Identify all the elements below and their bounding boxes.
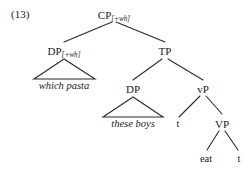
node-tp: TP (159, 45, 172, 57)
terminal-trace-object: t (238, 153, 241, 164)
example-number: (13) (11, 8, 30, 21)
tree-svg: (13) CP[+wh] DP[+wh] TP DP vP VP which p… (0, 0, 252, 175)
branch-cp-to-dp-wh (64, 22, 112, 42)
syntax-tree-figure: (13) CP[+wh] DP[+wh] TP DP vP VP which p… (0, 0, 252, 175)
node-dp-subject: DP (126, 83, 140, 95)
terminal-trace-subject: t (177, 118, 180, 129)
node-cp-subscript: [+wh] (111, 15, 130, 23)
triangle-which-pasta (34, 59, 95, 79)
branch-vp-to-trace-object (225, 131, 238, 150)
node-vp-big: VP (215, 118, 229, 130)
terminal-verb: eat (200, 153, 212, 164)
triangle-these-boys (103, 97, 163, 117)
terminal-these-boys: these boys (111, 118, 154, 129)
node-dp-wh-subscript: [+wh] (62, 51, 81, 59)
branch-cp-to-tp (116, 22, 165, 42)
terminal-which-pasta: which pasta (39, 80, 89, 91)
branch-vp-to-trace-subject (179, 96, 200, 117)
node-cp: CP[+wh] (98, 9, 131, 23)
node-dp-wh: DP[+wh] (48, 45, 81, 59)
branch-vp-to-vp-big (206, 96, 222, 114)
branch-tp-to-vp (168, 59, 203, 80)
branch-vp-to-verb (207, 131, 219, 150)
branch-tp-to-dp (133, 59, 162, 80)
node-dp-wh-label: DP (48, 45, 62, 57)
node-vp-small: vP (197, 83, 209, 95)
node-cp-label: CP (98, 9, 111, 21)
